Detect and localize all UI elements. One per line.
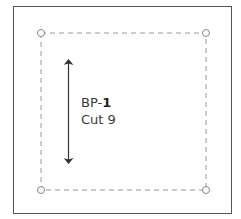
corner-circle-icon — [203, 187, 210, 194]
piece-code-prefix: BP- — [81, 95, 102, 110]
seam-line — [41, 33, 206, 190]
piece-code: BP-1 — [81, 94, 116, 111]
piece-code-number: 1 — [102, 95, 111, 110]
pattern-diagram — [0, 0, 241, 219]
cut-quantity: Cut 9 — [81, 111, 116, 128]
corner-circle-icon — [203, 30, 210, 37]
corner-circle-icon — [38, 187, 45, 194]
corner-markers — [38, 30, 210, 194]
piece-label: BP-1 Cut 9 — [81, 94, 116, 128]
corner-circle-icon — [38, 30, 45, 37]
